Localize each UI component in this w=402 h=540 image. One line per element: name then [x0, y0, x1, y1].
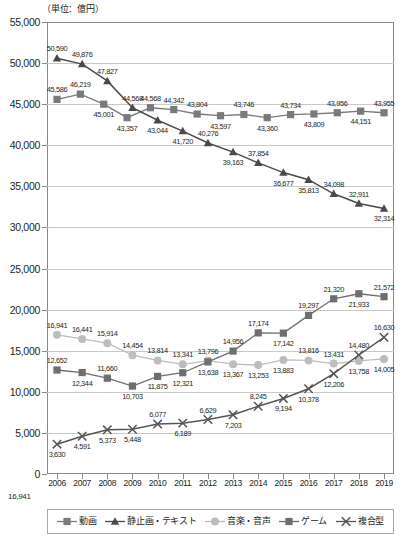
data-point-label: 13,253: [248, 371, 269, 380]
data-point-label: 14,454: [122, 341, 143, 350]
legend-item-ゲーム[interactable]: ゲーム: [279, 516, 327, 527]
series-marker: [329, 369, 337, 377]
data-point-label: 21,572: [374, 283, 395, 292]
data-point-label: 45,586: [47, 85, 68, 94]
y-axis-tick-label: 40,000: [0, 139, 40, 151]
series-marker: [204, 139, 212, 147]
data-point-label: 15,914: [97, 329, 118, 338]
series-marker: [240, 111, 247, 118]
legend-label: 音楽・音声: [227, 517, 270, 526]
series-marker: [194, 110, 201, 117]
chart-plot-area: 55,00050,00045,00040,00035,00030,00025,0…: [47, 22, 394, 474]
y-axis-tick-label: 30,000: [0, 221, 40, 233]
series-marker: [264, 114, 271, 121]
stray-value-label: 16,941: [8, 492, 31, 501]
data-point-label: 9,194: [275, 404, 292, 413]
data-point-label: 14,480: [349, 341, 370, 350]
series-marker: [103, 339, 111, 347]
x-axis-tick-label: 2012: [199, 478, 217, 488]
data-point-label: 43,357: [117, 124, 138, 133]
data-point-label: 13,431: [323, 350, 344, 359]
data-point-label: 17,174: [248, 319, 269, 328]
x-axis-tick-label: 2008: [98, 478, 116, 488]
data-point-label: 44,151: [350, 117, 371, 126]
legend-item-複合型[interactable]: 複合型: [336, 516, 384, 527]
data-point-label: 43,746: [234, 100, 255, 109]
data-point-label: 43,804: [187, 100, 208, 109]
data-point-label: 12,321: [173, 379, 194, 388]
data-point-label: 12,652: [47, 356, 68, 365]
series-marker: [380, 333, 388, 341]
data-point-label: 17,142: [273, 339, 294, 348]
legend-item-静止画・テキスト[interactable]: 静止画・テキスト: [105, 516, 196, 527]
y-axis-tick-label: 45,000: [0, 98, 40, 110]
legend-label: ゲーム: [301, 517, 327, 526]
series-marker: [357, 108, 364, 115]
series-marker: [79, 369, 86, 376]
x-axis-tick-label: 2015: [275, 478, 293, 488]
series-marker: [279, 394, 287, 402]
data-point-label: 11,875: [148, 382, 168, 391]
data-point-label: 37,854: [248, 149, 269, 158]
data-point-label: 5,373: [99, 436, 116, 445]
x-axis-tick-label: 2019: [375, 478, 393, 488]
series-marker: [287, 111, 294, 118]
data-point-label: 36,677: [273, 179, 294, 188]
series-marker: [53, 366, 60, 373]
data-point-label: 16,941: [47, 321, 68, 330]
legend-marker-square-icon: [57, 516, 77, 527]
series-marker: [104, 375, 111, 382]
y-axis-tick-label: 55,000: [0, 16, 40, 28]
series-marker: [179, 360, 187, 368]
data-point-label: 43,734: [280, 101, 301, 110]
y-axis-tick-label: 25,000: [0, 263, 40, 275]
series-marker: [330, 360, 338, 368]
series-marker: [310, 110, 317, 117]
series-marker: [254, 361, 262, 369]
series-marker: [103, 77, 111, 85]
data-point-label: 13,816: [298, 346, 319, 355]
series-marker: [53, 331, 61, 339]
series-marker: [77, 91, 84, 98]
x-axis-tick-label: 2013: [224, 478, 242, 488]
series-marker: [123, 114, 130, 121]
data-point-label: 8,245: [250, 392, 267, 401]
data-point-label: 32,314: [374, 214, 395, 223]
series-marker: [100, 101, 107, 108]
data-point-label: 19,297: [298, 301, 319, 310]
chart-legend: 動画静止画・テキスト音楽・音声ゲーム複合型: [47, 509, 394, 534]
legend-label: 動画: [79, 517, 96, 526]
data-point-label: 50,590: [47, 44, 68, 53]
data-point-label: 13,883: [273, 366, 294, 375]
series-marker: [154, 373, 161, 380]
legend-item-音楽・音声[interactable]: 音楽・音声: [205, 516, 270, 527]
data-point-label: 14,005: [374, 365, 395, 374]
data-point-label: 43,360: [257, 124, 278, 133]
y-axis-tick-label: 50,000: [0, 57, 40, 69]
y-axis-tick-label: 5,000: [0, 427, 40, 439]
data-point-label: 13,796: [198, 347, 219, 356]
x-axis-tick-label: 2018: [350, 478, 368, 488]
legend-item-動画[interactable]: 動画: [57, 516, 96, 527]
data-point-label: 10,703: [122, 392, 143, 401]
y-axis-tick-label: 0: [0, 468, 40, 480]
x-axis-tick-label: 2006: [48, 478, 66, 488]
data-point-label: 49,876: [72, 50, 93, 59]
data-point-label: 44,568: [122, 94, 143, 103]
unit-note: （単位：億円）: [42, 2, 104, 15]
series-marker: [128, 351, 136, 359]
data-point-label: 21,320: [323, 285, 344, 294]
data-point-label: 16,441: [72, 325, 93, 334]
data-point-label: 3,630: [49, 450, 66, 459]
data-point-label: 40,276: [198, 129, 219, 138]
y-axis-tick-label: 10,000: [0, 386, 40, 398]
series-marker: [355, 290, 362, 297]
data-point-label: 43,809: [304, 120, 325, 129]
data-point-label: 44,342: [164, 96, 185, 105]
data-point-label: 6,629: [200, 406, 217, 415]
data-point-label: 13,367: [223, 370, 244, 379]
data-point-label: 35,813: [298, 186, 319, 195]
data-point-label: 13,814: [147, 346, 168, 355]
data-point-label: 16,630: [374, 323, 395, 332]
data-point-label: 34,098: [323, 180, 344, 189]
